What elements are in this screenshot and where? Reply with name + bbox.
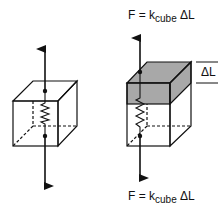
right-anchor-dot-bottom [138, 134, 142, 138]
extension-label: ΔL [201, 65, 216, 79]
force-equation-lhs: F = k [128, 189, 155, 203]
right-cube [127, 62, 191, 146]
bottom-force-label: F = kcube ΔL [128, 189, 195, 203]
force-equation-subscript: cube [155, 194, 177, 205]
right-anchor-dot-top [138, 70, 142, 74]
left-anchor-dot-top [43, 89, 47, 93]
stretched-front-band [127, 83, 170, 104]
force-equation-subscript: cube [155, 13, 177, 24]
force-equation-rhs: ΔL [177, 8, 195, 22]
diagram-canvas [0, 0, 224, 213]
left-anchor-dot-bottom [43, 134, 47, 138]
force-equation-rhs: ΔL [177, 189, 195, 203]
top-force-label: F = kcube ΔL [128, 8, 195, 22]
force-equation-lhs: F = k [128, 8, 155, 22]
